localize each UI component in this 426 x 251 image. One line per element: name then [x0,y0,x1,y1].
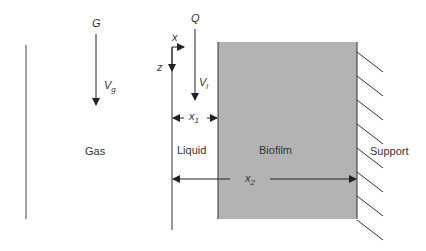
gas-velocity-label: Vg [104,79,116,94]
liquid-velocity-label: Vl [199,76,208,91]
support-region-label: Support [370,145,409,157]
x-axis-label: x [172,31,178,43]
x1-label: x1 [189,110,199,125]
gas-region-label: Gas [85,145,105,157]
diagram-canvas [0,0,426,251]
liquid-flow-label: Q [191,12,200,24]
liquid-region-label: Liquid [177,144,206,156]
biofilm-region-label: Biofilm [259,144,292,156]
z-axis-label: z [157,61,163,73]
x2-label: x2 [245,172,255,187]
biofilm-layer [218,42,357,219]
gas-flow-label: G [92,17,101,29]
